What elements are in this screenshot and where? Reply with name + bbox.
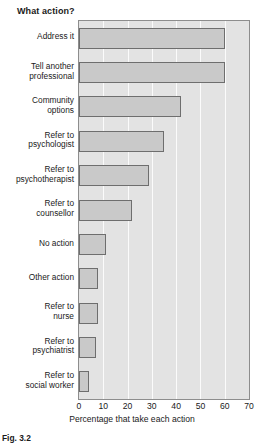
x-axis-tick-labels: 010203040506070 [78, 401, 250, 413]
bar [79, 96, 181, 117]
bars-group [79, 21, 249, 399]
figure-container: What action? Address itTell anotherprofe… [0, 0, 264, 443]
x-axis-tick-10: 10 [99, 401, 109, 411]
bar [79, 28, 225, 49]
bar [79, 268, 98, 289]
x-axis-tick-30: 30 [147, 401, 157, 411]
y-axis-label: Other action [0, 273, 74, 283]
y-axis-label-line: Other action [0, 273, 74, 283]
y-axis-label: Refer tosocial worker [0, 371, 74, 390]
bar [79, 234, 106, 255]
y-axis-label: Refer topsychiatrist [0, 337, 74, 356]
y-axis-label-line: social worker [0, 381, 74, 391]
x-axis-tick-50: 50 [196, 401, 206, 411]
figure-caption: Fig. 3.2 [2, 433, 264, 443]
y-axis-label: Refer topsychotherapist [0, 165, 74, 184]
y-axis-label-line: professional [0, 72, 74, 82]
figure-caption-label: Fig. 3.2 [2, 433, 31, 443]
x-axis-title: Percentage that take each action [0, 414, 264, 424]
y-axis-label: Tell anotherprofessional [0, 62, 74, 81]
y-axis-label-line: No action [0, 239, 74, 249]
plot-area [78, 20, 250, 400]
y-axis-label: Refer tonurse [0, 302, 74, 321]
y-axis-label-line: psychologist [0, 140, 74, 150]
y-axis-label-line: Address it [0, 32, 74, 42]
bar [79, 371, 89, 392]
x-axis-tick-40: 40 [171, 401, 181, 411]
y-axis-label-line: counsellor [0, 209, 74, 219]
page-title: What action? [17, 6, 75, 16]
y-axis-label-line: nurse [0, 312, 74, 322]
x-axis-tick-60: 60 [220, 401, 230, 411]
y-axis-label: Refer topsychologist [0, 131, 74, 150]
bar [79, 337, 96, 358]
bar [79, 62, 225, 83]
bar [79, 131, 164, 152]
bar [79, 200, 132, 221]
y-axis-label: Communityoptions [0, 96, 74, 115]
y-axis-label: Address it [0, 32, 74, 42]
bar [79, 165, 149, 186]
x-axis-tick-0: 0 [77, 401, 82, 411]
y-axis-label-line: psychotherapist [0, 175, 74, 185]
y-axis-label: No action [0, 239, 74, 249]
y-axis-label-line: options [0, 106, 74, 116]
x-axis-tick-20: 20 [123, 401, 133, 411]
x-axis-tick-70: 70 [244, 401, 254, 411]
y-axis-category-labels: Address itTell anotherprofessionalCommun… [0, 20, 74, 400]
y-axis-label: Refer tocounsellor [0, 199, 74, 218]
y-axis-label-line: psychiatrist [0, 346, 74, 356]
bar [79, 303, 98, 324]
